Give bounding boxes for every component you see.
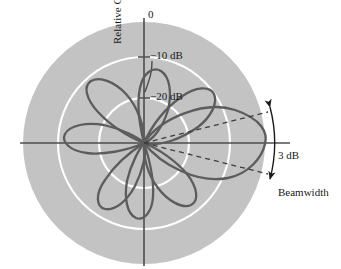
radial-tick-label-0db: 0 bbox=[148, 8, 154, 20]
beamwidth-label-line-2: Beamwidth bbox=[278, 186, 329, 198]
antenna-pattern-figure: 0 −10 dB −20 dB Relative Gain 3 dB Beamw… bbox=[0, 0, 341, 269]
radial-tick-label-minus-20db: −20 dB bbox=[150, 90, 183, 102]
radial-axis-title: Relative Gain bbox=[111, 0, 123, 44]
beamwidth-annotation-label: 3 dB Beamwidth bbox=[278, 124, 329, 223]
beamwidth-label-line-1: 3 dB bbox=[278, 149, 329, 161]
radial-tick-label-minus-10db: −10 dB bbox=[150, 49, 183, 61]
